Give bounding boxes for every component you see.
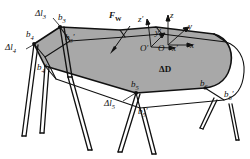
node-b5	[134, 91, 138, 95]
node-b3	[58, 25, 62, 29]
label-axis-y-prime: y′	[155, 28, 161, 37]
label-b5: b5	[131, 80, 139, 91]
label-axis-x: x	[190, 41, 194, 50]
label-origin-o: O	[158, 44, 165, 53]
label-axis-x-prime: x′	[172, 44, 178, 53]
label-force-fw: FW	[109, 11, 122, 22]
label-region-delta-d: ΔD	[159, 65, 171, 74]
label-b5-prime: b5′	[138, 107, 148, 118]
label-b4-prime: b4′	[37, 63, 47, 74]
label-delta-l4: Δl4	[5, 43, 16, 54]
figure-root: Δl3 Δl4 Δl5 b3 b3′ b4 b4′ b5 b5′ b6 b6′ …	[0, 0, 250, 159]
label-delta-l5: Δl5	[104, 99, 115, 110]
label-b4: b4	[26, 30, 34, 41]
leader-dl4	[26, 45, 33, 49]
label-b3: b3	[58, 13, 66, 24]
leg-b6	[200, 98, 239, 140]
label-b6-prime: b6′	[224, 90, 234, 101]
label-axis-z-prime: z′	[138, 15, 143, 24]
diagram-canvas	[0, 0, 250, 159]
label-b3-prime: b3′	[65, 33, 75, 44]
leg-mid	[68, 77, 92, 150]
label-delta-l3: Δl3	[35, 9, 46, 20]
leader-dl5	[123, 94, 134, 101]
label-b6: b6	[200, 79, 208, 90]
label-axis-y: y	[188, 22, 192, 31]
label-axis-z: z	[170, 11, 174, 20]
label-origin-o-prime: O′	[140, 44, 148, 53]
